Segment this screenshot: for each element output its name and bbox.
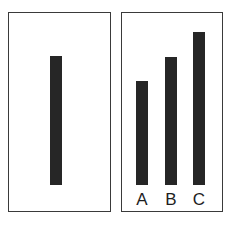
- label-a: A: [132, 191, 152, 208]
- label-b: B: [161, 191, 181, 208]
- single-bar: [50, 56, 62, 185]
- bar-c: [193, 32, 205, 185]
- bar-a: [136, 81, 148, 185]
- bar-b: [165, 57, 177, 185]
- label-c: C: [189, 191, 209, 208]
